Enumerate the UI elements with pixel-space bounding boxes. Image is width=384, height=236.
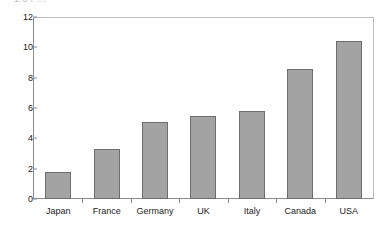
x-tick-label: Italy: [244, 205, 261, 217]
x-tick-mark: [179, 199, 180, 203]
bars-container: [34, 17, 373, 199]
x-tick-label: Germany: [137, 205, 174, 217]
bar: [45, 172, 71, 199]
y-tick-label: 8: [7, 73, 33, 83]
x-tick-label: USA: [340, 205, 359, 217]
bar: [239, 111, 265, 199]
bar-slot: [276, 17, 324, 199]
bar-slot: [131, 17, 179, 199]
y-axis: 024681012: [0, 0, 33, 236]
bar: [287, 69, 313, 199]
y-tick-label: 10: [7, 42, 33, 52]
bar-slot: [179, 17, 227, 199]
y-tick-label: 4: [7, 133, 33, 143]
x-tick-label: Japan: [46, 205, 71, 217]
x-axis-labels: JapanFranceGermanyUKItalyCanadaUSA: [34, 205, 373, 221]
x-tick-label: Canada: [285, 205, 317, 217]
y-tick-label: 0: [7, 194, 33, 204]
bar-slot: [82, 17, 130, 199]
y-tick-label: 2: [7, 164, 33, 174]
x-tick-mark: [82, 199, 83, 203]
x-tick-mark: [131, 199, 132, 203]
x-tick-label: UK: [197, 205, 210, 217]
bar-slot: [34, 17, 82, 199]
x-tick-mark: [325, 199, 326, 203]
x-tick-label: France: [93, 205, 121, 217]
bar-chart-figure: 1.0 / ... 024681012 JapanFranceGermanyUK…: [0, 0, 384, 236]
bar-slot: [228, 17, 276, 199]
y-tick-label: 12: [7, 12, 33, 22]
bar: [142, 122, 168, 199]
y-tick-label: 6: [7, 103, 33, 113]
bar-slot: [325, 17, 373, 199]
bar: [190, 116, 216, 199]
bar: [94, 149, 120, 199]
x-tick-mark: [276, 199, 277, 203]
x-tick-mark: [228, 199, 229, 203]
bar: [336, 41, 362, 199]
